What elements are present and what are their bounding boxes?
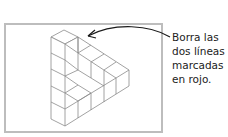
cube-triangle bbox=[51, 30, 129, 126]
instruction-text: Borra las dos líneas marcadas en rojo. bbox=[172, 30, 228, 86]
instruction-line-4: en rojo. bbox=[172, 72, 228, 86]
instruction-line-2: dos líneas bbox=[172, 44, 228, 58]
arrow bbox=[88, 27, 170, 38]
instruction-line-1: Borra las bbox=[172, 30, 228, 44]
instruction-line-3: marcadas bbox=[172, 58, 228, 72]
